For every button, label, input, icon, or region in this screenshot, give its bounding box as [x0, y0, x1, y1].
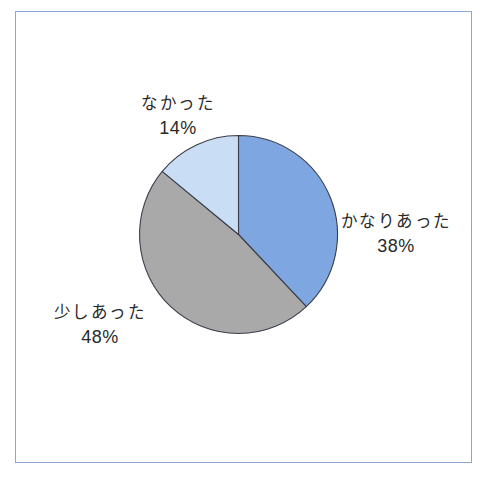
label-sukoshi-atta: 少しあった 48%: [44, 300, 156, 350]
slice-name: なかった: [130, 91, 226, 116]
label-kanari-atta: かなりあった 38%: [340, 209, 452, 259]
slice-percent: 38%: [340, 234, 452, 259]
slice-name: 少しあった: [44, 300, 156, 325]
slice-percent: 48%: [44, 325, 156, 350]
slice-percent: 14%: [130, 116, 226, 141]
slice-name: かなりあった: [340, 209, 452, 234]
label-nakatta: なかった 14%: [130, 91, 226, 141]
